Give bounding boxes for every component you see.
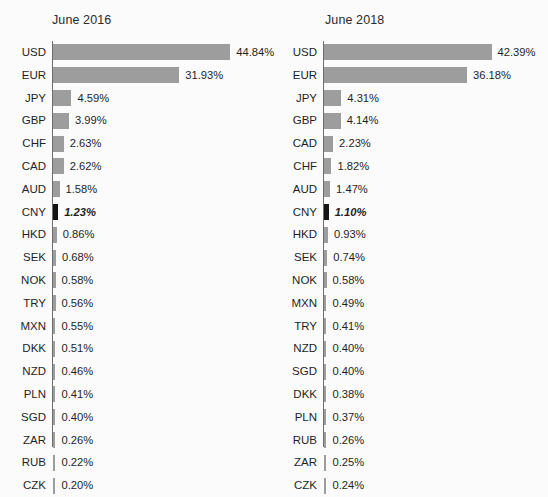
bar-hkd bbox=[324, 227, 328, 243]
bar-row: NOK0.58% bbox=[323, 269, 544, 292]
value-label-eur: 31.93% bbox=[185, 64, 223, 87]
bar-row: JPY4.59% bbox=[52, 87, 270, 110]
bar-pln bbox=[324, 409, 326, 425]
bar-row: SEK0.68% bbox=[52, 246, 270, 269]
value-label-dkk: 0.51% bbox=[62, 337, 94, 360]
bar-row: SGD0.40% bbox=[52, 406, 270, 429]
category-label-nok: NOK bbox=[21, 269, 46, 292]
category-label-usd: USD bbox=[293, 41, 317, 64]
bar-dkk bbox=[53, 341, 55, 357]
bar-row: EUR31.93% bbox=[52, 64, 270, 87]
bar-row: RUB0.26% bbox=[323, 429, 544, 452]
value-label-jpy: 4.31% bbox=[347, 87, 379, 110]
category-label-chf: CHF bbox=[293, 155, 317, 178]
category-label-aud: AUD bbox=[22, 178, 46, 201]
value-label-pln: 0.41% bbox=[62, 383, 94, 406]
bar-row: CHF2.63% bbox=[52, 132, 270, 155]
value-label-cad: 2.23% bbox=[339, 132, 371, 155]
category-label-pln: PLN bbox=[24, 383, 46, 406]
bar-row: CAD2.23% bbox=[323, 132, 544, 155]
bar-jpy bbox=[324, 90, 341, 106]
category-label-hkd: HKD bbox=[293, 223, 317, 246]
category-label-eur: EUR bbox=[293, 64, 317, 87]
category-label-mxn: MXN bbox=[20, 315, 46, 338]
value-label-nok: 0.58% bbox=[333, 269, 365, 292]
bar-row: EUR36.18% bbox=[323, 64, 544, 87]
category-label-sgd: SGD bbox=[21, 406, 46, 429]
bar-nok bbox=[53, 272, 55, 288]
bar-hkd bbox=[53, 227, 56, 243]
value-label-mxn: 0.55% bbox=[62, 315, 94, 338]
bar-row: AUD1.58% bbox=[52, 178, 270, 201]
bar-cad bbox=[53, 158, 63, 174]
bar-aud bbox=[53, 181, 59, 197]
plot-area: USD44.84%EUR31.93%JPY4.59%GBP3.99%CHF2.6… bbox=[52, 41, 270, 455]
category-label-cad: CAD bbox=[22, 155, 46, 178]
value-label-gbp: 4.14% bbox=[347, 109, 379, 132]
value-label-aud: 1.47% bbox=[336, 178, 368, 201]
value-label-pln: 0.37% bbox=[333, 406, 365, 429]
bar-czk bbox=[53, 478, 55, 494]
category-label-cny: CNY bbox=[293, 201, 317, 224]
value-label-chf: 1.82% bbox=[337, 155, 369, 178]
bar-row: NZD0.46% bbox=[52, 360, 270, 383]
bar-try bbox=[53, 295, 55, 311]
value-label-nzd: 0.40% bbox=[333, 337, 365, 360]
bar-row: MXN0.49% bbox=[323, 292, 544, 315]
bar-row: MXN0.55% bbox=[52, 315, 270, 338]
bar-dkk bbox=[324, 386, 326, 402]
category-label-try: TRY bbox=[23, 292, 46, 315]
value-label-sek: 0.74% bbox=[333, 246, 365, 269]
bar-mxn bbox=[324, 295, 326, 311]
bar-try bbox=[324, 318, 326, 334]
category-label-sek: SEK bbox=[294, 246, 317, 269]
category-label-eur: EUR bbox=[22, 64, 46, 87]
bar-sek bbox=[53, 250, 56, 266]
category-label-sek: SEK bbox=[23, 246, 46, 269]
value-label-sek: 0.68% bbox=[62, 246, 94, 269]
bar-rub bbox=[324, 432, 326, 448]
bar-gbp bbox=[324, 113, 340, 129]
bar-row: NOK0.58% bbox=[52, 269, 270, 292]
value-label-try: 0.56% bbox=[62, 292, 94, 315]
value-label-cad: 2.62% bbox=[70, 155, 102, 178]
bar-nzd bbox=[53, 364, 55, 380]
value-label-zar: 0.25% bbox=[333, 451, 365, 474]
category-label-cny: CNY bbox=[22, 201, 46, 224]
bar-cad bbox=[324, 136, 333, 152]
category-label-jpy: JPY bbox=[296, 87, 317, 110]
bar-mxn bbox=[53, 318, 55, 334]
value-label-eur: 36.18% bbox=[473, 64, 511, 87]
bar-sek bbox=[324, 250, 327, 266]
value-label-hkd: 0.93% bbox=[334, 223, 366, 246]
category-label-nok: NOK bbox=[292, 269, 317, 292]
bar-row: HKD0.86% bbox=[52, 223, 270, 246]
bar-row: DKK0.38% bbox=[323, 383, 544, 406]
bar-row: PLN0.37% bbox=[323, 406, 544, 429]
value-label-rub: 0.26% bbox=[333, 429, 365, 452]
bar-row: CZK0.20% bbox=[52, 474, 270, 497]
bar-row: CAD2.62% bbox=[52, 155, 270, 178]
value-label-nzd: 0.46% bbox=[62, 360, 94, 383]
value-label-czk: 0.20% bbox=[62, 474, 94, 497]
value-label-jpy: 4.59% bbox=[77, 87, 109, 110]
category-label-dkk: DKK bbox=[293, 383, 317, 406]
bar-chf bbox=[53, 136, 63, 152]
chart-title: June 2016 bbox=[52, 13, 111, 27]
bar-row: TRY0.41% bbox=[323, 315, 544, 338]
bar-czk bbox=[324, 478, 326, 494]
bar-row: GBP3.99% bbox=[52, 109, 270, 132]
bar-row: ZAR0.26% bbox=[52, 429, 270, 452]
value-label-cny: 1.23% bbox=[64, 201, 96, 224]
bar-usd bbox=[53, 44, 230, 60]
value-label-cny: 1.10% bbox=[335, 201, 367, 224]
bar-row: USD42.39% bbox=[323, 41, 544, 64]
bar-row: USD44.84% bbox=[52, 41, 270, 64]
bar-row: CHF1.82% bbox=[323, 155, 544, 178]
category-label-rub: RUB bbox=[22, 451, 46, 474]
category-label-nzd: NZD bbox=[293, 337, 317, 360]
bar-row: NZD0.40% bbox=[323, 337, 544, 360]
value-label-hkd: 0.86% bbox=[63, 223, 95, 246]
bar-row: CZK0.24% bbox=[323, 474, 544, 497]
